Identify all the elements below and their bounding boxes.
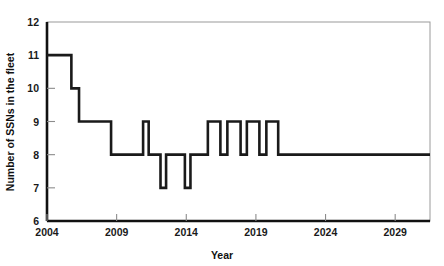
x-tick-label-2004: 2004 [35,226,59,238]
x-tick-label-2014: 2014 [175,226,199,238]
x-tick-label-2009: 2009 [105,226,129,238]
chart-container: 200420092014201920242029 6789101112 Year… [0,0,444,266]
x-tick-label-2019: 2019 [244,226,268,238]
y-tick-label-10: 10 [27,82,39,94]
y-tick-label-9: 9 [33,116,39,128]
y-tick-label-6: 6 [33,215,39,227]
ssn-fleet-step-chart: 200420092014201920242029 6789101112 Year… [0,0,444,266]
chart-background [0,0,444,266]
x-tick-label-2029: 2029 [384,226,408,238]
x-tick-label-2024: 2024 [314,226,338,238]
y-tick-label-7: 7 [33,182,39,194]
y-tick-label-11: 11 [28,49,39,61]
x-axis-title: Year [211,249,233,261]
y-tick-label-12: 12 [27,16,39,28]
y-tick-label-8: 8 [33,149,39,161]
y-axis-title: Number of SSNs in the fleet [4,52,16,191]
